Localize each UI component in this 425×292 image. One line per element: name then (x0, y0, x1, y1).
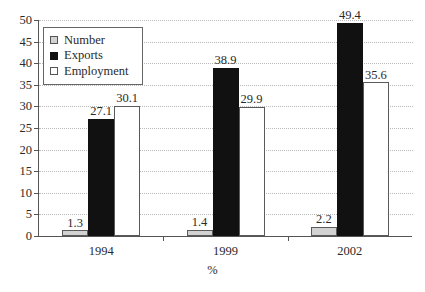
y-axis-tick (34, 128, 39, 129)
x-axis-tick-label: 1994 (89, 245, 114, 258)
x-axis-tick (163, 236, 164, 241)
x-axis-tick-label: 2002 (337, 245, 362, 258)
bar-value-label: 29.9 (241, 93, 263, 106)
bar-exports-1999: 38.9 (213, 68, 239, 236)
y-axis-tick (34, 171, 39, 172)
y-axis-tick-label: 45 (20, 35, 33, 48)
y-axis-tick-label: 50 (20, 14, 33, 27)
y-axis-tick (34, 20, 39, 21)
y-axis-tick (34, 214, 39, 215)
y-axis-tick (34, 236, 39, 237)
bar-number-1994: 1.3 (62, 230, 88, 236)
bar-value-label: 35.6 (365, 69, 387, 82)
y-axis-tick (34, 106, 39, 107)
legend-item-employment: Employment (50, 64, 136, 78)
y-axis-tick (34, 63, 39, 64)
y-axis-tick-label: 0 (26, 230, 32, 243)
y-axis-tick-label: 30 (20, 100, 33, 113)
bar-value-label: 27.1 (90, 105, 112, 118)
bar-value-label: 1.3 (67, 217, 83, 230)
bar-value-label: 2.2 (316, 213, 332, 226)
bar-chart: 0510152025303540455019941.327.130.119991… (0, 0, 425, 292)
y-axis-tick (34, 193, 39, 194)
x-axis-tick (288, 236, 289, 241)
y-axis-tick-label: 35 (20, 79, 33, 92)
bar-employment-1994: 30.1 (114, 106, 140, 236)
chart-legend: Number Exports Employment (43, 27, 143, 85)
y-axis-tick (34, 42, 39, 43)
bar-number-2002: 2.2 (311, 227, 337, 237)
bar-value-label: 49.4 (339, 9, 361, 22)
y-axis-tick (34, 150, 39, 151)
y-axis-tick-label: 25 (20, 122, 33, 135)
bar-value-label: 30.1 (116, 92, 138, 105)
bar-value-label: 38.9 (215, 54, 237, 67)
bar-value-label: 1.4 (192, 216, 208, 229)
y-axis-tick (34, 85, 39, 86)
y-axis-tick-label: 5 (26, 208, 32, 221)
y-axis-tick-label: 15 (20, 165, 33, 178)
bar-exports-2002: 49.4 (337, 23, 363, 236)
bar-employment-2002: 35.6 (363, 82, 389, 236)
legend-label-employment: Employment (64, 64, 129, 78)
x-axis-title: % (0, 264, 425, 277)
legend-swatch-number-icon (50, 36, 58, 44)
bar-number-1999: 1.4 (187, 230, 213, 236)
y-axis-tick-label: 20 (20, 143, 33, 156)
legend-swatch-exports-icon (50, 52, 58, 60)
legend-item-number: Number (50, 33, 136, 47)
x-axis-tick-label: 1999 (213, 245, 238, 258)
legend-swatch-employment-icon (50, 67, 58, 75)
y-axis-tick-label: 10 (20, 187, 33, 200)
legend-label-exports: Exports (64, 48, 103, 62)
legend-label-number: Number (64, 33, 105, 47)
bar-employment-1999: 29.9 (239, 107, 265, 236)
legend-item-exports: Exports (50, 48, 136, 62)
bar-exports-1994: 27.1 (88, 119, 114, 236)
y-axis-tick-label: 40 (20, 57, 33, 70)
